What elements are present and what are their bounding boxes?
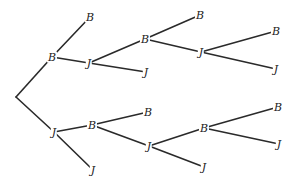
tree-edge (201, 52, 276, 69)
tree-node-j: J (143, 67, 149, 78)
tree-node-j: J (201, 162, 207, 173)
tree-node-j: J (51, 127, 57, 138)
tree-edge (16, 57, 52, 97)
tree-node-j: J (90, 165, 96, 176)
tree-edge (204, 107, 278, 128)
tree-node-b: B (271, 26, 281, 37)
tree-edge (89, 63, 146, 72)
tree-node-b: B (47, 52, 57, 63)
tree-node-b: B (87, 120, 97, 131)
tree-node-j: J (86, 58, 92, 69)
tree-node-b: B (140, 34, 150, 45)
tree-edge (16, 97, 54, 132)
tree-node-j: J (198, 47, 204, 58)
tree-diagram: BJBJBJBJBJBJBJBJBJ (0, 0, 295, 182)
tree-edge (52, 17, 90, 57)
tree-edge (149, 128, 204, 146)
tree-node-j: J (276, 139, 282, 150)
tree-edge (89, 39, 145, 63)
tree-node-j: J (146, 141, 152, 152)
tree-node-b: B (273, 102, 283, 113)
tree-edge (145, 39, 201, 52)
tree-node-j: J (273, 64, 279, 75)
tree-edge (52, 57, 89, 63)
tree-node-b: B (199, 123, 209, 134)
tree-edge (204, 128, 279, 144)
tree-edge (92, 125, 149, 146)
tree-edge (145, 15, 200, 39)
tree-node-b: B (195, 10, 205, 21)
tree-edges (0, 0, 295, 182)
tree-edge (149, 146, 204, 167)
tree-node-b: B (85, 12, 95, 23)
tree-edge (54, 132, 93, 170)
tree-node-b: B (143, 107, 153, 118)
tree-edge (201, 31, 276, 52)
tree-edge (92, 112, 148, 125)
